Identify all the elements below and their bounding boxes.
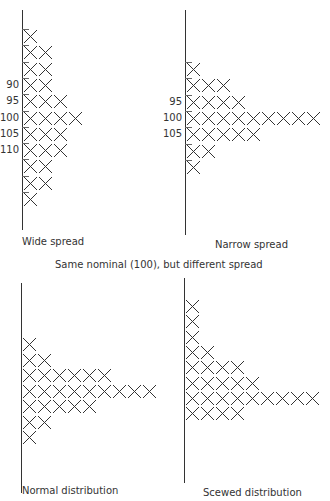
tally-x-mark [186,95,201,110]
tally-x-mark [215,391,230,406]
tally-x-mark [22,368,37,383]
center-caption: Same nominal (100), but different spread [55,259,263,270]
row-label: 110 [0,144,19,155]
row-label: 100 [162,112,182,123]
tally-x-mark [53,94,68,109]
row-label: 95 [162,96,182,107]
tally-x-mark [38,176,53,191]
tally-x-mark [37,368,52,383]
tally-x-mark [261,111,276,126]
tally-x-mark [245,391,260,406]
tally-x-mark [67,399,82,414]
tally-x-mark [200,391,215,406]
tally-x-mark [291,111,306,126]
tally-x-mark [37,353,52,368]
tally-x-mark [37,415,52,430]
tally-x-mark [22,353,37,368]
tally-x-mark [276,111,291,126]
tally-x-mark [230,376,245,391]
tally-x-mark [215,376,230,391]
tally-x-mark [246,111,261,126]
tally-x-mark [185,345,200,360]
panel-caption: Normal distribution [22,485,118,496]
tally-x-mark [53,111,68,126]
tally-x-mark [97,384,112,399]
panel-caption: Wide spread [22,236,84,247]
tally-x-mark [23,29,38,44]
tally-x-mark [38,143,53,158]
tally-x-mark [38,127,53,142]
tally-x-mark [23,127,38,142]
panel-caption: Narrow spread [215,239,288,250]
tally-x-mark [23,62,38,77]
tally-x-mark [37,384,52,399]
tally-x-mark [201,78,216,93]
tally-x-mark [275,391,290,406]
tally-x-mark [23,192,38,207]
tally-x-mark [67,368,82,383]
tally-x-mark [200,406,215,421]
tally-x-mark [185,376,200,391]
tally-x-mark [231,111,246,126]
tally-x-mark [200,345,215,360]
panel-caption: Scewed distribution [203,487,302,498]
tally-x-mark [23,45,38,60]
tally-x-mark [52,399,67,414]
tally-x-mark [230,406,245,421]
tally-x-mark [185,391,200,406]
tally-x-mark [23,78,38,93]
tally-x-mark [52,368,67,383]
tally-x-mark [186,144,201,159]
tally-x-mark [185,299,200,314]
tally-x-mark [215,360,230,375]
tally-x-mark [52,384,67,399]
tally-x-mark [23,176,38,191]
tally-x-mark [37,399,52,414]
tally-x-mark [230,360,245,375]
tally-x-mark [185,314,200,329]
tally-x-mark [186,78,201,93]
tally-x-mark [200,360,215,375]
tally-x-mark [201,95,216,110]
tally-x-mark [260,391,275,406]
tally-x-mark [231,95,246,110]
tally-x-mark [82,384,97,399]
tally-x-mark [67,384,82,399]
tally-x-mark [22,384,37,399]
tally-x-mark [186,62,201,77]
tally-x-mark [82,399,97,414]
tally-x-mark [22,415,37,430]
tally-x-mark [53,143,68,158]
row-label: 105 [0,128,19,139]
tally-x-mark [23,111,38,126]
tally-x-mark [186,111,201,126]
tally-x-mark [53,127,68,142]
tally-x-mark [185,406,200,421]
tally-x-mark [185,330,200,345]
tally-x-mark [23,143,38,158]
tally-x-mark [112,384,127,399]
tally-x-mark [97,368,112,383]
tally-x-mark [38,159,53,174]
row-label: 95 [0,95,19,106]
tally-x-mark [216,78,231,93]
tally-x-mark [23,94,38,109]
tally-x-mark [38,45,53,60]
tally-x-mark [186,127,201,142]
tally-x-mark [127,384,142,399]
tally-x-mark [22,399,37,414]
tally-x-mark [38,78,53,93]
row-label: 100 [0,112,19,123]
tally-x-mark [38,62,53,77]
tally-x-mark [82,368,97,383]
tally-x-mark [216,127,231,142]
tally-x-mark [142,384,157,399]
tally-x-mark [201,127,216,142]
tally-x-mark [22,337,37,352]
tally-x-mark [306,111,321,126]
tally-x-mark [185,360,200,375]
tally-x-mark [246,127,261,142]
row-label: 105 [162,128,182,139]
tally-x-mark [68,111,83,126]
tally-x-mark [230,391,245,406]
